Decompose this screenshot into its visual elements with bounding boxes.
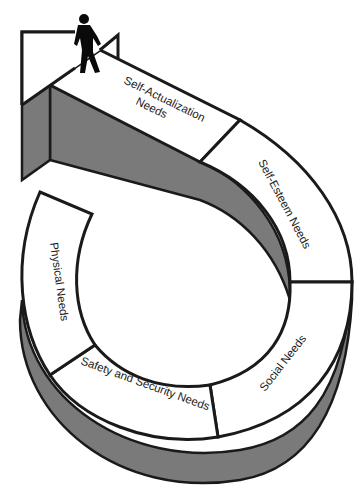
needs-spiral-diagram: Self-Actualization Needs Self-Esteem Nee… [0,0,359,504]
